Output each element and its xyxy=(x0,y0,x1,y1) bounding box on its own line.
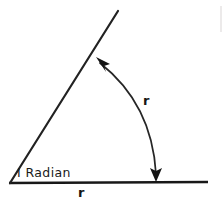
arc-path xyxy=(100,63,156,174)
angle-label: I Radian xyxy=(17,167,71,180)
baseline-radius-label: r xyxy=(78,186,84,199)
baseline-ray xyxy=(9,182,208,183)
arc-radius-label: r xyxy=(143,94,149,107)
scan-edge-artifact xyxy=(220,6,222,32)
slanted-ray xyxy=(10,11,118,183)
radian-diagram-figure: I Radian r r xyxy=(0,0,222,203)
